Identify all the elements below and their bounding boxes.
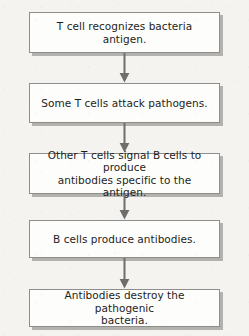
flowchart-node-3-label: Other T cells signal B cells to produce …: [30, 149, 219, 199]
flowchart-node-5: Antibodies destroy the pathogenic bacter…: [29, 289, 220, 327]
flowchart-node-3: Other T cells signal B cells to produce …: [29, 153, 220, 194]
flowchart-node-4-label: B cells produce antibodies.: [47, 233, 202, 246]
flowchart-node-5-label: Antibodies destroy the pathogenic bacter…: [30, 289, 219, 327]
flowchart-node-1-label: T cell recognizes bacteria antigen.: [30, 20, 219, 45]
flowchart-node-2: Some T cells attack pathogens.: [29, 83, 220, 123]
arrow-down-icon-1: [118, 53, 131, 83]
flowchart-node-2-label: Some T cells attack pathogens.: [35, 97, 213, 110]
flowchart-node-4: B cells produce antibodies.: [29, 220, 220, 258]
flowchart-diagram: T cell recognizes bacteria antigen. Some…: [0, 0, 249, 336]
flowchart-node-1: T cell recognizes bacteria antigen.: [29, 12, 220, 53]
arrow-down-icon-3: [118, 194, 131, 220]
arrow-down-icon-4: [118, 258, 131, 289]
